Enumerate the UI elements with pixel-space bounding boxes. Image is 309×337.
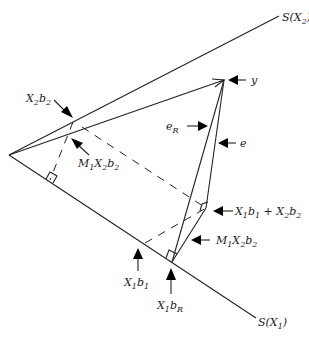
pointer-fitted-arrow-icon [213, 206, 223, 216]
pointer-e-arrow-icon [218, 138, 228, 148]
pointer-x1br-arrow-icon [166, 268, 176, 280]
label-eR: eR [166, 120, 179, 135]
label-sx2: S(X2) [282, 11, 309, 26]
pointer-y-arrow-icon [228, 75, 238, 85]
pointer-x2b2-arrow-icon [61, 106, 73, 118]
pointer-eR-arrow-icon [198, 121, 208, 131]
label-m1x2b2-top: M1X2b2 [77, 157, 119, 172]
right-angle-origin-icon [46, 172, 57, 183]
label-x1b1: X1b1 [123, 276, 149, 291]
label-y: y [250, 74, 258, 87]
label-e: e [240, 137, 247, 150]
label-x1b1-plus-x2b2: X1b1 + X2b2 [234, 205, 301, 220]
m1x2b2-segment [172, 208, 206, 262]
subspace-sx2-line [9, 16, 279, 155]
label-sx1: S(X1) [258, 316, 287, 331]
label-m1x2b2-right: M1X2b2 [215, 234, 257, 249]
dashed-x2b2-projection [50, 122, 73, 180]
label-x2b2: X2b2 [25, 92, 51, 107]
pointer-x1b1-arrow-icon [133, 248, 143, 259]
fwl-diagram: S(X2) S(X1) y e eR X2b2 M1X2b2 X1b1 + X2… [0, 0, 309, 337]
diagram-svg: S(X2) S(X1) y e eR X2b2 M1X2b2 X1b1 + X2… [0, 0, 309, 337]
pointer-m1x2b2-right-arrow-icon [191, 235, 201, 245]
label-x1br: X1bR [156, 299, 183, 314]
